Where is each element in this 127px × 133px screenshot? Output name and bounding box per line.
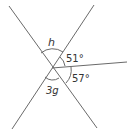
label-h: h [48, 36, 55, 49]
label-57: 57° [72, 73, 90, 84]
angle-diagram: h 51° 57° 3g [0, 0, 127, 133]
arc-57 [66, 67, 71, 83]
label-3g: 3g [46, 85, 59, 96]
ray-right [52, 62, 127, 68]
label-51: 51° [66, 53, 84, 64]
arc-h [41, 49, 63, 53]
arc-3g [45, 77, 59, 80]
arc-51 [60, 57, 65, 66]
line-topright-bottomleft [12, 5, 94, 129]
